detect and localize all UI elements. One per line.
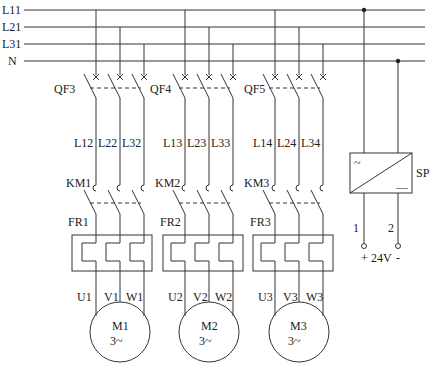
breaker-label: QF5 (244, 82, 265, 96)
motor-control-schematic: L11 L21 L31 N (0, 0, 435, 375)
overload-relay-box (163, 235, 243, 271)
terminal-minus-icon (396, 244, 401, 249)
terminal-label: U2 (168, 290, 183, 304)
ac-symbol: ~ (354, 156, 361, 170)
terminal-label: U1 (77, 290, 92, 304)
wire-label: L34 (301, 136, 320, 150)
wire-label: L13 (163, 136, 182, 150)
bus-lines (24, 10, 425, 61)
motor-label: M2 (201, 319, 218, 333)
contactor-label: KM1 (66, 176, 91, 190)
plus-sign: + (361, 251, 368, 265)
motor-label: M3 (290, 319, 307, 333)
power-supply-label: SP (416, 166, 430, 180)
minus-sign: - (396, 251, 400, 265)
terminal-plus-icon (362, 244, 367, 249)
terminal-label: V3 (283, 290, 298, 304)
bus-label-l31: L31 (2, 37, 21, 51)
motor-type: 3~ (288, 334, 301, 348)
wire-label: L12 (74, 136, 93, 150)
breaker-label: QF3 (54, 82, 75, 96)
wire-label: L33 (211, 136, 230, 150)
wire-label: L14 (253, 136, 272, 150)
dc-symbol: — (395, 180, 409, 194)
voltage-label: 24V (371, 251, 392, 265)
contactor-label: KM2 (155, 176, 180, 190)
motor-type: 3~ (199, 334, 212, 348)
motor-label: M1 (112, 319, 129, 333)
terminal-label: W3 (306, 290, 323, 304)
relay-label: FR3 (250, 215, 271, 229)
terminal-label: W1 (126, 290, 143, 304)
terminal-number: 2 (388, 221, 394, 235)
wire-label: L22 (98, 136, 117, 150)
relay-label: FR2 (160, 215, 181, 229)
junction-dot (362, 8, 366, 12)
motor-type: 3~ (110, 334, 123, 348)
terminal-label: U3 (258, 290, 273, 304)
overload-relay-box (72, 235, 152, 271)
terminal-number: 1 (353, 221, 359, 235)
bus-label-l11: L11 (2, 3, 21, 17)
breaker-label: QF4 (150, 82, 171, 96)
wire-label: L23 (187, 136, 206, 150)
wire-label: L32 (122, 136, 141, 150)
contactor-label: KM3 (244, 176, 269, 190)
bus-label-n: N (8, 54, 17, 68)
terminal-label: V2 (193, 290, 208, 304)
wire-label: L24 (277, 136, 296, 150)
terminal-label: V1 (104, 290, 119, 304)
overload-relay-box (253, 235, 333, 271)
bus-label-l21: L21 (2, 20, 21, 34)
junction-dot (396, 59, 400, 63)
terminal-label: W2 (215, 290, 232, 304)
relay-label: FR1 (68, 215, 89, 229)
